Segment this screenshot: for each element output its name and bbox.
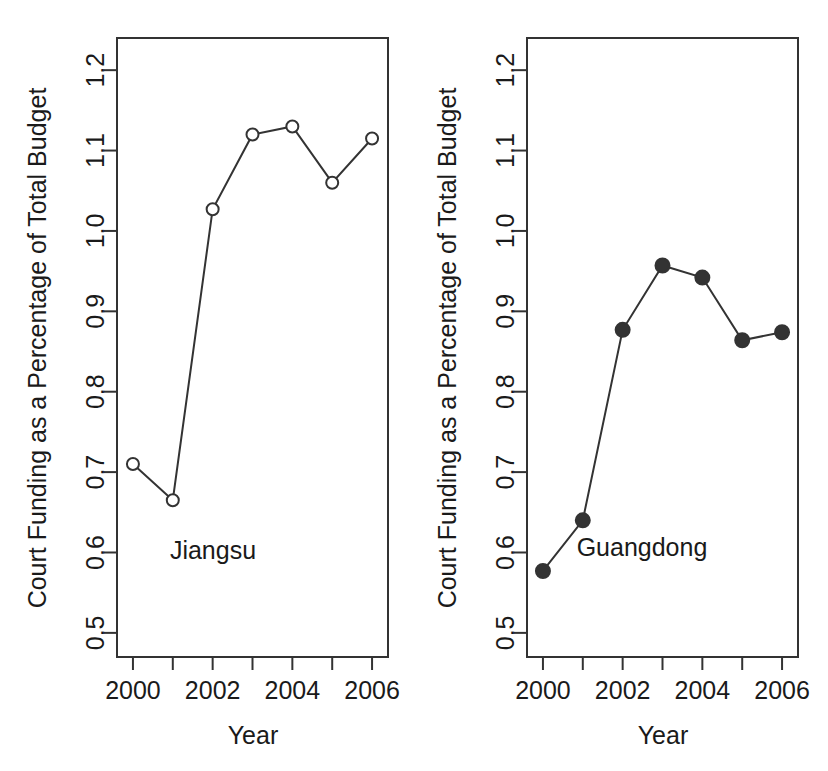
chart-panel-guangdong: 0.50.60.70.80.91.01.11.2 200020022004200… [414,0,828,771]
data-point-marker [127,458,139,470]
x-tick-label: 2006 [344,676,400,704]
y-tick-label: 0.9 [81,294,109,329]
data-point-marker [366,132,378,144]
data-point-marker [735,333,749,347]
y-tick-label: 1.0 [491,214,519,249]
y-tick-label: 1.0 [81,214,109,249]
data-point-marker [775,325,789,339]
x-tick-label: 2004 [675,676,731,704]
data-point-marker [656,259,670,273]
y-tick-label: 1.1 [81,133,109,168]
y-axis-title: Court Funding as a Percentage of Total B… [433,88,461,609]
series-annotation-label: Guangdong [577,533,708,561]
x-tick-label: 2000 [515,676,571,704]
data-point-marker [247,128,259,140]
data-point-marker [207,203,219,215]
x-axis-tick-labels: 2000200220042006 [105,676,400,704]
y-tick-label: 0.5 [81,616,109,651]
data-point-marker [326,177,338,189]
x-axis-title: Year [228,721,279,749]
x-tick-label: 2000 [105,676,161,704]
y-tick-label: 1.2 [81,53,109,88]
y-tick-label: 0.7 [81,455,109,490]
plot-svg-guangdong: 0.50.60.70.80.91.01.11.2 200020022004200… [414,0,828,771]
plot-svg-jiangsu: 0.50.60.70.80.91.01.11.2 200020022004200… [0,0,414,771]
data-point-marker [576,513,590,527]
x-axis-ticks [133,657,372,670]
data-point-marker [167,494,179,506]
y-tick-label: 0.5 [491,616,519,651]
x-tick-label: 2002 [185,676,241,704]
y-tick-label: 0.6 [81,535,109,570]
chart-panel-jiangsu: 0.50.60.70.80.91.01.11.2 200020022004200… [0,0,414,771]
data-point-marker [536,564,550,578]
y-tick-label: 0.8 [491,374,519,409]
data-point-marker [695,271,709,285]
y-axis-tick-labels: 0.50.60.70.80.91.01.11.2 [81,53,109,650]
plot-frame [527,38,798,657]
figure-canvas: 0.50.60.70.80.91.01.11.2 200020022004200… [0,0,828,771]
data-point-marker [286,120,298,132]
y-tick-label: 0.6 [491,535,519,570]
x-tick-label: 2004 [265,676,321,704]
y-tick-label: 0.9 [491,294,519,329]
y-tick-label: 0.7 [491,455,519,490]
y-axis-title: Court Funding as a Percentage of Total B… [23,88,51,609]
plot-box [527,38,798,657]
y-tick-label: 1.1 [491,133,519,168]
x-axis-title: Year [638,721,689,749]
y-tick-label: 0.8 [81,374,109,409]
y-axis-tick-labels: 0.50.60.70.80.91.01.11.2 [491,53,519,650]
series-annotation-label: Jiangsu [170,536,256,564]
x-tick-label: 2002 [595,676,651,704]
x-axis-tick-labels: 2000200220042006 [515,676,810,704]
x-tick-label: 2006 [754,676,810,704]
y-tick-label: 1.2 [491,53,519,88]
x-axis-ticks [543,657,782,670]
data-points [127,120,378,506]
data-point-marker [616,323,630,337]
